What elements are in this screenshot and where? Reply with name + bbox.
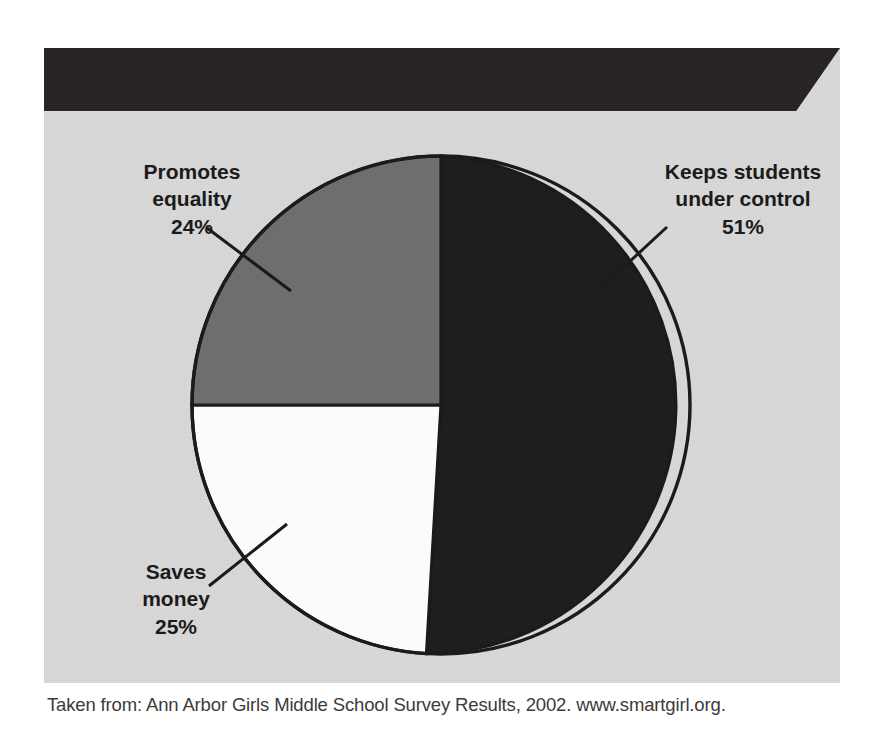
pie-label-value: 51% [638,213,848,240]
title-banner [44,48,840,111]
pie-label-line-2: money [120,585,232,612]
pie-label-line-2: under control [638,185,848,212]
pie-label-line-1: Keeps students [638,158,848,185]
pie-label-line-1: Promotes [108,158,276,185]
source-caption: Taken from: Ann Arbor Girls Middle Schoo… [47,694,726,716]
pie-label-value: 24% [108,213,276,240]
pie-label-line-1: Saves [120,558,232,585]
page-root: STUDENTS’ REASONS FOR SUPPORT OF A DRESS… [0,0,881,741]
pie-label-value: 25% [120,613,232,640]
banner-texture [44,48,840,111]
pie-label-keeps-students-under-control: Keeps students under control 51% [638,158,848,240]
pie-label-line-2: equality [108,185,276,212]
pie-label-promotes-equality: Promotes equality 24% [108,158,276,240]
pie-label-saves-money: Saves money 25% [120,558,232,640]
